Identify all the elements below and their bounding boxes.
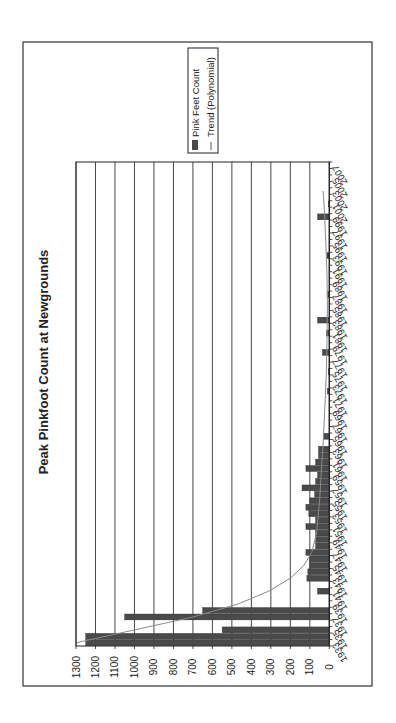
value-tick-label: 1300 (71, 655, 82, 678)
value-tick-label: 1200 (90, 655, 101, 678)
value-tick-label: 400 (246, 658, 257, 675)
legend: Pink Feet Count Trend (Polynomial) (188, 48, 218, 153)
bar (306, 550, 329, 556)
value-tick-label: 500 (226, 658, 237, 675)
value-tick-label: 300 (265, 658, 276, 675)
bar (316, 530, 330, 536)
bar (306, 504, 329, 510)
legend-label-trend: Trend (Polynomial) (205, 57, 216, 137)
bar (316, 537, 330, 543)
bar (306, 466, 329, 472)
bar (315, 491, 330, 497)
bar (308, 569, 329, 575)
value-tick-label: 0 (324, 664, 335, 670)
bar (322, 349, 329, 355)
value-tick-label: 900 (148, 658, 159, 675)
bar (316, 543, 330, 549)
bar (86, 640, 330, 646)
bar (319, 453, 330, 459)
value-tick-label: 1100 (109, 656, 120, 678)
bar (222, 627, 329, 633)
value-tick-label: 700 (187, 658, 198, 675)
bar (316, 479, 330, 485)
bar (318, 214, 330, 220)
bar (310, 562, 329, 568)
value-tick-label: 600 (207, 658, 218, 675)
value-tick-label: 1000 (129, 655, 140, 678)
bar (310, 556, 329, 562)
chart-title: Peak Pinkfoot Count at Newgrounds (36, 250, 51, 475)
chart: 0100200300400500600700800900100011001200… (0, 0, 396, 723)
bar (319, 446, 330, 452)
bar (125, 614, 330, 620)
bar (318, 472, 330, 478)
bar (323, 433, 329, 439)
legend-bar-swatch-icon (192, 140, 198, 150)
legend-label-count: Pink Feet Count (190, 69, 201, 137)
value-tick-label: 200 (285, 658, 296, 675)
bar (318, 588, 330, 594)
bar (86, 633, 330, 639)
value-tick-label: 800 (168, 658, 179, 675)
bar (307, 575, 329, 581)
bar (302, 485, 329, 491)
value-tick-label: 100 (304, 658, 315, 675)
